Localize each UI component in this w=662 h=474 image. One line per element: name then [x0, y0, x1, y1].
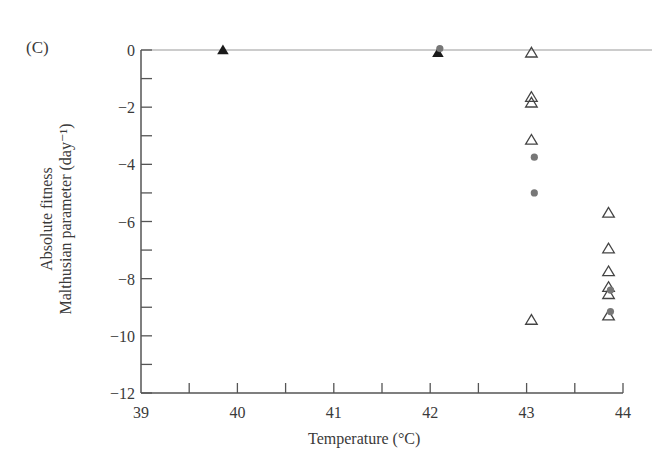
x-tick-label: 40	[229, 404, 245, 421]
y-tick-label: −12	[110, 385, 135, 402]
axes	[141, 50, 652, 393]
panel-label: (C)	[26, 38, 49, 58]
dot-marker	[531, 189, 538, 196]
y-tick-label: 0	[127, 42, 135, 59]
y-tick-label: −10	[110, 328, 135, 345]
y-tick-label: −6	[118, 214, 135, 231]
x-tick-label: 39	[133, 404, 149, 421]
data-points	[217, 45, 614, 325]
dot-marker	[436, 45, 443, 52]
dot-marker	[607, 287, 614, 294]
scatter-chart: 0−2−4−6−8−10−12394041424344	[0, 0, 662, 474]
open-triangle-marker	[603, 266, 615, 276]
axis-ticks	[141, 50, 623, 393]
x-tick-label: 41	[326, 404, 342, 421]
open-triangle-marker	[526, 135, 538, 145]
x-tick-label: 42	[422, 404, 438, 421]
open-triangle-marker	[526, 315, 538, 325]
open-triangle-marker	[526, 47, 538, 57]
filled-triangle-marker	[217, 45, 229, 55]
dot-marker	[531, 154, 538, 161]
x-tick-label: 43	[519, 404, 535, 421]
y-tick-label: −8	[118, 271, 135, 288]
open-triangle-marker	[603, 243, 615, 253]
dot-marker	[607, 308, 614, 315]
y-tick-label: −4	[118, 156, 135, 173]
x-tick-label: 44	[615, 404, 631, 421]
tick-labels: 0−2−4−6−8−10−12394041424344	[110, 42, 631, 421]
y-axis-label-line2: Malthusian parameter (day⁻¹)	[56, 59, 75, 379]
y-axis-label-line1: Absolute fitness	[37, 59, 56, 379]
x-axis-label: Temperature (°C)	[308, 430, 420, 448]
y-tick-label: −2	[118, 99, 135, 116]
open-triangle-marker	[603, 207, 615, 217]
